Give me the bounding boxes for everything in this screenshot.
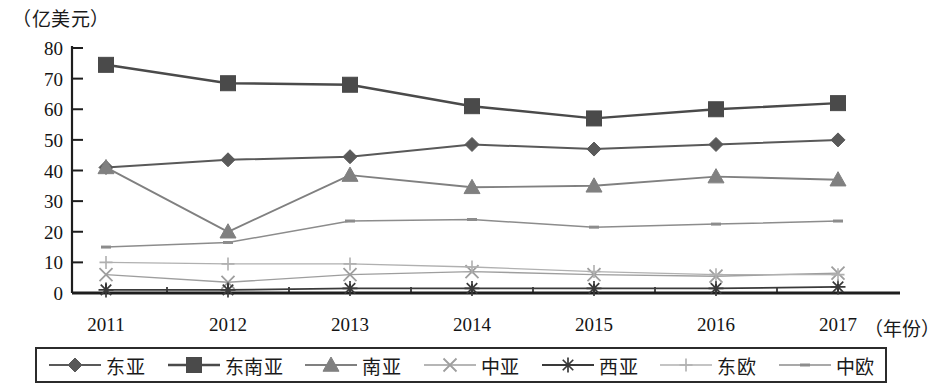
series-line [106, 167, 838, 231]
chart-legend: 东亚东南亚南亚中亚西亚东欧中欧 [35, 347, 887, 383]
legend-marker-x-icon [422, 355, 478, 375]
data-point-marker [709, 102, 724, 117]
data-point-marker [680, 359, 693, 372]
legend-marker-dash-icon [777, 355, 833, 375]
data-point-marker [186, 358, 201, 373]
data-point-marker [710, 268, 723, 281]
data-point-marker [221, 282, 236, 297]
data-point-marker [831, 133, 845, 147]
data-point-marker [587, 281, 602, 296]
data-point-marker [832, 268, 845, 281]
legend-item-东南亚[interactable]: 东南亚 [164, 352, 286, 379]
y-axis: 01020304050607080 [44, 38, 83, 304]
data-point-marker [465, 137, 479, 151]
data-point-marker [343, 150, 357, 164]
legend-marker-diamond-icon [47, 355, 103, 375]
legend-item-西亚[interactable]: 西亚 [538, 352, 640, 379]
legend-marker-triangle-icon [303, 355, 359, 375]
y-axis-tick-label-30: 30 [44, 191, 63, 212]
legend-label: 西亚 [599, 352, 638, 379]
data-point-marker [99, 57, 114, 72]
line-chart-svg: 01020304050607080 [0, 38, 922, 306]
legend-label: 中欧 [836, 352, 875, 379]
y-axis-tick-label-0: 0 [54, 283, 64, 304]
legend-item-东欧[interactable]: 东欧 [656, 352, 758, 379]
series-东南亚 [99, 57, 846, 126]
y-axis-tick-label-60: 60 [44, 99, 63, 120]
data-point-marker [709, 137, 723, 151]
legend-label: 南亚 [362, 352, 401, 379]
series-东亚 [99, 133, 845, 175]
y-axis-tick-label-40: 40 [44, 161, 63, 182]
x-axis-unit-label: （年份） [864, 314, 932, 341]
legend-label: 东欧 [717, 352, 756, 379]
series-line [106, 220, 838, 248]
data-point-marker [221, 76, 236, 91]
data-point-marker [708, 169, 724, 183]
legend-label: 东南亚 [225, 352, 284, 379]
legend-item-中亚[interactable]: 中亚 [420, 352, 522, 379]
data-point-marker [588, 265, 601, 278]
legend-item-中欧[interactable]: 中欧 [775, 352, 877, 379]
series-南亚 [98, 159, 846, 238]
data-point-marker [68, 358, 82, 372]
data-point-marker [99, 282, 114, 297]
data-point-marker [222, 257, 235, 270]
legend-item-东亚[interactable]: 东亚 [45, 352, 147, 379]
x-axis-tick-label-2015: 2015 [554, 314, 634, 336]
x-axis-tick-label-2011: 2011 [66, 314, 146, 336]
data-point-marker [343, 77, 358, 92]
data-point-marker [221, 153, 235, 167]
y-axis-tick-label-20: 20 [44, 222, 63, 243]
data-point-marker [831, 279, 846, 294]
legend-marker-plus-icon [658, 355, 714, 375]
x-axis-tick-label-2014: 2014 [432, 314, 512, 336]
legend-marker-asterisk-icon [540, 355, 596, 375]
data-point-marker [465, 99, 480, 114]
y-axis-tick-label-50: 50 [44, 130, 63, 151]
data-point-marker [342, 167, 358, 181]
y-axis-unit-label: （亿美元） [12, 4, 110, 31]
x-axis-tick-label-2013: 2013 [310, 314, 390, 336]
series-西亚 [99, 279, 846, 297]
data-point-marker [100, 256, 113, 269]
series-东欧 [100, 256, 845, 281]
data-point-marker [709, 281, 724, 296]
legend-item-南亚[interactable]: 南亚 [301, 352, 403, 379]
plot-area: 01020304050607080 [0, 38, 922, 306]
data-point-marker [344, 257, 357, 270]
x-axis-tick-label-2016: 2016 [676, 314, 756, 336]
data-point-marker [220, 224, 236, 238]
data-point-marker [465, 281, 480, 296]
legend-label: 东亚 [106, 352, 145, 379]
data-point-marker [561, 358, 576, 373]
y-axis-tick-label-70: 70 [44, 69, 63, 90]
data-point-marker [587, 142, 601, 156]
data-point-marker [587, 111, 602, 126]
y-axis-tick-label-80: 80 [44, 38, 63, 59]
x-axis-tick-label-2012: 2012 [188, 314, 268, 336]
data-point-marker [831, 96, 846, 111]
legend-label: 中亚 [481, 352, 520, 379]
data-point-marker [343, 281, 358, 296]
y-axis-tick-label-10: 10 [44, 252, 63, 273]
legend-marker-square-icon [166, 355, 222, 375]
